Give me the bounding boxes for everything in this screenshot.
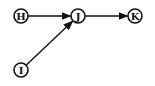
node-k: K xyxy=(128,9,142,23)
node-label: I xyxy=(19,65,24,76)
dag-diagram: HJKI xyxy=(0,0,155,86)
node-label: H xyxy=(16,11,25,22)
node-label: K xyxy=(131,11,140,22)
node-j: J xyxy=(71,9,85,23)
node-label: J xyxy=(75,11,81,22)
node-h: H xyxy=(14,9,28,23)
edge-i-to-j xyxy=(26,21,72,65)
node-i: I xyxy=(14,63,28,77)
